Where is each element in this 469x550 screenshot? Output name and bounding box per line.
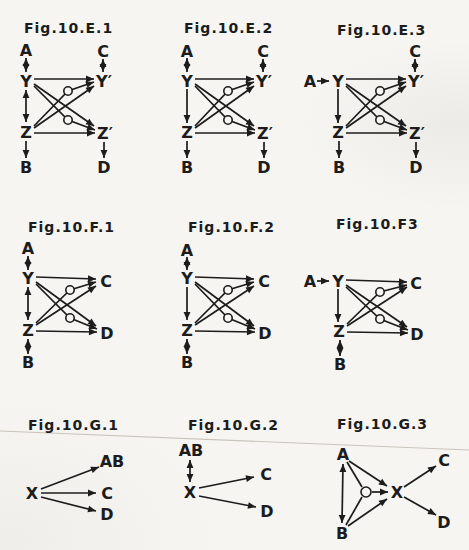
node-y: Y	[180, 269, 193, 288]
path-circle	[376, 315, 384, 323]
arrowhead	[246, 275, 254, 282]
node-y: Y	[21, 269, 34, 288]
fig-10-e-1: Fig.10.E.1ACYY′ZZ′BD	[19, 20, 113, 177]
node-c: C	[409, 42, 421, 61]
node-b: B	[22, 353, 34, 372]
figure-title: Fig.10.G.2	[188, 417, 279, 433]
node-c: C	[258, 272, 270, 291]
node-z: Z	[22, 321, 34, 340]
arrowhead	[25, 339, 32, 347]
path-circle	[376, 288, 384, 296]
node-y: Y	[331, 72, 344, 91]
node-x: X	[391, 483, 404, 502]
figure-title: Fig.10.G.1	[28, 417, 119, 433]
arrow-Z-D	[347, 332, 408, 333]
node-ab: AB	[100, 452, 125, 471]
arrow-X-D	[199, 496, 256, 507]
node-a: A	[181, 42, 194, 61]
node-b: B	[20, 158, 32, 177]
arrowhead	[187, 460, 194, 468]
node-z: Z	[20, 123, 32, 142]
node-c: C	[257, 42, 269, 61]
node-c: C	[100, 272, 112, 291]
arrowhead	[247, 130, 255, 137]
node-d: D	[100, 505, 113, 524]
arrowhead	[245, 286, 254, 293]
arrowhead	[400, 329, 408, 336]
arrowhead	[187, 474, 194, 482]
node-b: B	[181, 158, 193, 177]
node-d: D	[437, 513, 450, 532]
node-b: B	[333, 158, 345, 177]
figure-title: Fig.10.E.1	[24, 20, 113, 36]
node-c: C	[101, 484, 113, 503]
figure-title: Fig.10.F3	[336, 216, 419, 232]
arrow-B-circle	[346, 497, 362, 525]
node-d: D	[97, 158, 110, 177]
scanned-page: Fig.10.E.1ACYY′ZZ′BDFig.10.E.2ACYY′ZZ′BD…	[0, 0, 469, 550]
arrowhead	[339, 464, 346, 472]
node-y: Y	[180, 72, 193, 91]
arrow-Z-D	[36, 331, 97, 332]
path-circle	[224, 286, 232, 294]
fig-10-e-3: Fig.10.E.3ACYY′ZZ′BD	[304, 22, 426, 177]
node-d: D	[100, 324, 113, 343]
node-y: Y	[331, 272, 344, 291]
arrowhead	[25, 312, 32, 320]
fig-10-g-2: Fig.10.G.2ABXCD	[179, 417, 279, 521]
node-z: Z	[181, 321, 193, 340]
figure-title: Fig.10.G.3	[337, 416, 428, 432]
arrowhead	[25, 287, 32, 295]
node-x: X	[26, 484, 39, 503]
node-c: C	[438, 451, 450, 470]
node-b: B	[336, 524, 348, 543]
node-y-prime: Y′	[95, 72, 112, 91]
node-d: D	[258, 324, 271, 343]
node-z: Z	[333, 322, 345, 341]
node-a: A	[304, 72, 317, 91]
node-y: Y	[19, 72, 32, 91]
arrowhead	[87, 286, 96, 293]
node-c: C	[97, 42, 109, 61]
arrowhead	[337, 340, 344, 348]
arrowhead	[378, 499, 387, 506]
arrow-Y-C	[346, 280, 407, 282]
node-a: A	[337, 445, 350, 464]
path-circle	[64, 87, 72, 95]
arrowhead	[246, 119, 254, 126]
figure-title: Fig.10.E.3	[337, 22, 426, 38]
figure-title: Fig.10.F.2	[188, 219, 275, 235]
node-z-prime: Z′	[257, 124, 273, 143]
node-x: X	[184, 483, 197, 502]
arrowhead	[85, 119, 94, 126]
figure-title: Fig.10.F.1	[28, 219, 115, 235]
arrowhead	[399, 130, 407, 137]
path-circle	[224, 116, 232, 124]
arrowhead	[23, 90, 30, 98]
fig-10-e-2: Fig.10.E.2ACYY′ZZ′BD	[180, 20, 273, 177]
path-circle	[66, 314, 74, 322]
arrowhead	[247, 328, 255, 335]
scan-artifact-line	[0, 431, 469, 450]
node-y-prime: Y′	[255, 72, 272, 91]
node-z-prime: Z′	[409, 124, 425, 143]
arrowhead	[397, 86, 406, 93]
arrow-X-C	[199, 477, 254, 488]
arrowhead	[246, 86, 254, 93]
node-z: Z	[181, 123, 193, 142]
arrowhead	[321, 278, 329, 285]
node-d: D	[410, 325, 423, 344]
arrowhead	[380, 489, 388, 496]
node-c: C	[260, 465, 272, 484]
arrowhead	[245, 475, 254, 482]
path-circle	[376, 87, 384, 95]
arrowhead	[321, 78, 329, 85]
path-circle	[376, 116, 384, 124]
node-z: Z	[332, 123, 344, 142]
fig-10-f-2: Fig.10.F.2AYZBCD	[180, 219, 275, 372]
arrowhead	[86, 76, 94, 83]
node-d: D	[260, 502, 273, 521]
node-ab: AB	[179, 441, 204, 460]
node-a: A	[304, 272, 317, 291]
node-c: C	[410, 274, 422, 293]
